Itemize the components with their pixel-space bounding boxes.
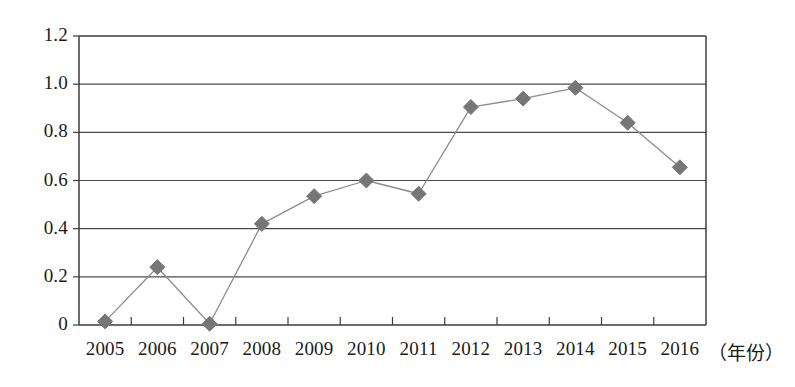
y-axis-tick-label: 0 [58,313,68,335]
x-axis-tick-label: 2012 [441,338,501,360]
data-point-marker [307,189,322,204]
x-axis-tick-label: 2015 [598,338,658,360]
data-point-marker [516,91,531,106]
x-axis-tick-label: 2010 [336,338,396,360]
y-axis-tick-label: 1.2 [44,24,68,46]
data-point-marker [568,80,583,95]
y-axis-tick-label: 0.8 [44,120,68,142]
data-point-marker [411,186,426,201]
x-axis-tick-label: 2005 [75,338,135,360]
data-line [105,88,680,324]
y-axis-tick-label: 0.6 [44,169,68,191]
data-point-marker [463,100,478,115]
x-axis-tick-label: 2009 [284,338,344,360]
y-axis-tick-label: 1.0 [44,72,68,94]
y-axis-tick-label: 0.2 [44,265,68,287]
x-axis-tick-label: 2016 [650,338,710,360]
x-axis-unit-label: （年份） [708,338,784,365]
line-chart: 00.20.40.60.81.01.2 20052006200720082009… [0,0,795,387]
x-axis-tick-label: 2014 [545,338,605,360]
x-axis-tick-label: 2011 [389,338,449,360]
chart-canvas [0,0,795,387]
y-axis-tick-label: 0.4 [44,217,68,239]
x-axis-tick-label: 2006 [127,338,187,360]
data-point-marker [359,173,374,188]
x-axis-tick-label: 2007 [180,338,240,360]
x-axis-tick-label: 2008 [232,338,292,360]
x-axis-tick-label: 2013 [493,338,553,360]
